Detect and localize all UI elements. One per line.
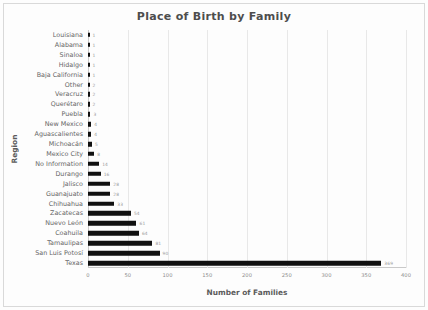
- bar: [88, 201, 114, 206]
- y-axis-tick-label: Hidalgo: [59, 61, 83, 69]
- y-axis-tick-label: Other: [65, 81, 83, 89]
- bar-value-label: 64: [142, 231, 148, 236]
- bar-row: Chihuahua33: [88, 199, 406, 208]
- x-axis-tick-label: 100: [163, 272, 173, 278]
- bar-value-label: 61: [139, 221, 145, 226]
- bar-value-label: 33: [117, 201, 123, 206]
- x-axis-tick-label: 350: [361, 272, 371, 278]
- bar-row: Baja California1: [88, 70, 406, 79]
- bar-row: Veracruz2: [88, 90, 406, 99]
- y-axis-tick-label: Sinaloa: [60, 51, 83, 59]
- bar-value-label: 1: [93, 32, 96, 37]
- bar: [88, 92, 90, 97]
- bar-value-label: 2: [93, 82, 96, 87]
- y-axis-tick-label: Zacatecas: [50, 209, 83, 217]
- bar-row: Hidalgo1: [88, 60, 406, 69]
- bar-row: Alabama1: [88, 40, 406, 49]
- y-axis-tick-label: Mexico City: [46, 150, 83, 158]
- bar-value-label: 1: [93, 72, 96, 77]
- chart-title: Place of Birth by Family: [0, 10, 428, 23]
- bar: [88, 102, 90, 107]
- x-axis-tick-label: 150: [202, 272, 212, 278]
- bar: [88, 181, 110, 186]
- x-axis-tick-label: 400: [401, 272, 411, 278]
- bar-row: Durango16: [88, 169, 406, 178]
- bar: [88, 62, 90, 67]
- bar-row: Coahuila64: [88, 229, 406, 238]
- x-axis-tick-label: 300: [322, 272, 332, 278]
- bar-row: Louisiana1: [88, 30, 406, 39]
- y-axis-tick-label: Aguascalientes: [35, 130, 83, 138]
- y-axis-tick-label: Michoacán: [49, 140, 83, 148]
- y-axis-tick-label: Guanajuato: [46, 190, 83, 198]
- bar: [88, 221, 136, 226]
- bar-row: Nuevo León61: [88, 219, 406, 228]
- bar-value-label: 90: [163, 251, 169, 256]
- bar-value-label: 4: [94, 132, 97, 137]
- bar-value-label: 28: [113, 191, 119, 196]
- bar: [88, 142, 92, 147]
- bar: [88, 251, 160, 256]
- bar: [88, 33, 90, 38]
- bar-row: New Mexico4: [88, 120, 406, 129]
- bar-row: Guanajuato28: [88, 189, 406, 198]
- y-axis-tick-label: Baja California: [37, 71, 83, 79]
- y-axis-tick-label: San Luis Potosí: [35, 249, 83, 257]
- bar-row: San Luis Potosí90: [88, 249, 406, 258]
- bar-value-label: 1: [93, 62, 96, 67]
- bar-value-label: 3: [93, 112, 96, 117]
- bar: [88, 162, 99, 167]
- y-axis-tick-label: Veracruz: [55, 90, 83, 98]
- y-axis-tick-label: Chihuahua: [49, 200, 83, 208]
- bar-value-label: 5: [95, 142, 98, 147]
- bar-row: Puebla3: [88, 110, 406, 119]
- plot-area: 050100150200250300350400Louisiana1Alabam…: [88, 30, 406, 268]
- bar-row: No Information14: [88, 159, 406, 168]
- bar: [88, 53, 90, 58]
- x-axis-tick-label: 250: [282, 272, 292, 278]
- bar-value-label: 14: [102, 161, 108, 166]
- bar-row: Aguascalientes4: [88, 130, 406, 139]
- bar-value-label: 2: [93, 92, 96, 97]
- bar-value-label: 81: [155, 241, 161, 246]
- bar: [88, 122, 91, 127]
- bar-value-label: 8: [97, 151, 100, 156]
- bar-value-label: 16: [104, 171, 110, 176]
- x-axis-tick-label: 50: [124, 272, 131, 278]
- y-axis-tick-label: Jalisco: [63, 180, 83, 188]
- bar: [88, 132, 91, 137]
- y-axis-tick-label: Coahuila: [55, 229, 83, 237]
- bar-row: Querétaro2: [88, 100, 406, 109]
- y-axis-tick-label: Nuevo León: [45, 219, 83, 227]
- bar: [88, 191, 110, 196]
- x-axis-tick-label: 0: [86, 272, 89, 278]
- bar-value-label: 1: [93, 42, 96, 47]
- y-axis-tick-label: Louisiana: [53, 31, 83, 39]
- bar-row: Michoacán5: [88, 140, 406, 149]
- x-axis-tick-label: 200: [242, 272, 252, 278]
- bar-row: Mexico City8: [88, 149, 406, 158]
- bar-value-label: 2: [93, 102, 96, 107]
- bar: [88, 231, 139, 236]
- y-axis-title: Region: [10, 135, 19, 164]
- x-axis-title: Number of Families: [88, 288, 406, 297]
- bar-row: Texas369: [88, 259, 406, 268]
- gridline: [406, 30, 407, 268]
- y-axis-tick-label: No Information: [35, 160, 83, 168]
- bar: [88, 112, 90, 117]
- y-axis-tick-label: Tamaulipas: [47, 239, 83, 247]
- y-axis-tick-label: Puebla: [62, 110, 83, 118]
- bar: [88, 82, 90, 87]
- bar-row: Jalisco28: [88, 179, 406, 188]
- bar-row: Zacatecas54: [88, 209, 406, 218]
- bar-value-label: 54: [134, 211, 140, 216]
- bar: [88, 241, 152, 246]
- y-axis-tick-label: Durango: [55, 170, 83, 178]
- bar-value-label: 4: [94, 122, 97, 127]
- y-axis-tick-label: Querétaro: [51, 100, 83, 108]
- bar: [88, 43, 90, 48]
- y-axis-tick-label: New Mexico: [45, 120, 83, 128]
- chart-figure: Place of Birth by Family 050100150200250…: [0, 0, 428, 310]
- bar-value-label: 369: [384, 261, 393, 266]
- y-axis-tick-label: Alabama: [55, 41, 83, 49]
